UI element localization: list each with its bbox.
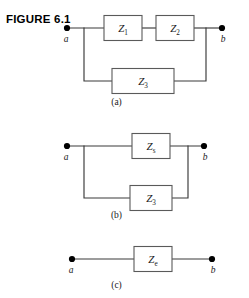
terminal-label-a: a bbox=[64, 152, 69, 162]
terminal-label-b: b bbox=[211, 265, 216, 275]
terminal-node-a bbox=[69, 256, 75, 262]
wire-left-branch-to-z3 bbox=[84, 146, 130, 198]
panel-caption-b: (b) bbox=[0, 210, 241, 220]
wire-z3-to-right-branch bbox=[172, 146, 188, 198]
panel-caption-a: (a) bbox=[0, 97, 241, 107]
terminal-label-a: a bbox=[69, 265, 74, 275]
terminal-node-b bbox=[219, 25, 225, 31]
circuit-panel-b: Zs Z3 a b (b) bbox=[0, 118, 249, 230]
circuit-panel-a: Z1 Z2 Z3 a b (a) bbox=[0, 0, 249, 118]
terminal-label-b: b bbox=[203, 152, 208, 162]
terminal-label-a: a bbox=[64, 34, 69, 44]
terminal-node-b bbox=[209, 256, 215, 262]
circuit-panel-c: Ze a b (c) bbox=[0, 230, 249, 298]
terminal-node-b bbox=[201, 143, 207, 149]
panel-caption-c: (c) bbox=[0, 280, 241, 290]
terminal-node-a bbox=[64, 25, 70, 31]
terminal-label-b: b bbox=[221, 34, 226, 44]
terminal-node-a bbox=[64, 143, 70, 149]
